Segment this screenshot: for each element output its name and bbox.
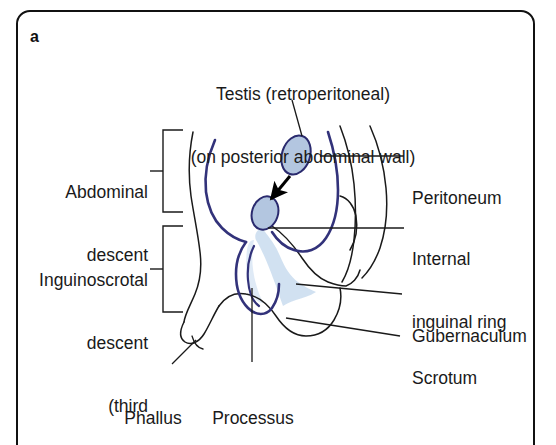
- label-peritoneum-line1: Peritoneum: [412, 188, 502, 209]
- label-scrotum: Scrotum: [412, 326, 477, 431]
- label-scrotum-line1: Scrotum: [412, 368, 477, 389]
- label-phallus: Phallus: [108, 366, 198, 445]
- label-processus-vaginalis-line1: Processus: [205, 408, 301, 429]
- label-internal-inguinal-ring-line1: Internal: [412, 249, 506, 270]
- gubernaculum-shading: [255, 228, 316, 306]
- label-testis-retroperitoneal: Testis (retroperitoneal) (on posterior a…: [158, 42, 448, 210]
- leader-phallus: [172, 340, 196, 364]
- label-processus-vaginalis: Processus vaginalis: [205, 366, 301, 445]
- label-abdominal-descent-line1: Abdominal: [20, 182, 148, 203]
- label-inguinoscrotal-descent-line1: Inguinoscrotal: [12, 270, 148, 291]
- label-phallus-line1: Phallus: [108, 408, 198, 429]
- figure-panel-a: epididymis, spermatogenesis, a: [0, 0, 556, 445]
- label-inguinoscrotal-descent-line2: descent: [12, 333, 148, 354]
- label-testis-line1: Testis (retroperitoneal): [158, 84, 448, 105]
- leader-scrotum: [286, 318, 400, 336]
- bracket-inguinoscrotal-descent: [163, 226, 183, 312]
- label-testis-line2: (on posterior abdominal wall): [158, 147, 448, 168]
